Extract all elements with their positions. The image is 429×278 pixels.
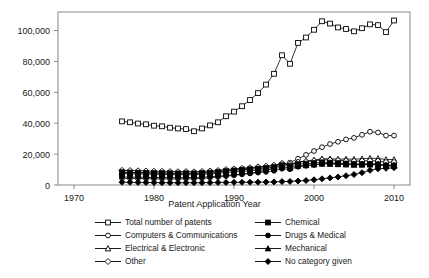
data-point-open-circle xyxy=(312,149,317,154)
legend-label: Drugs & Medical xyxy=(285,231,346,239)
legend-key xyxy=(255,244,281,253)
series-total-number-of-patents xyxy=(120,18,397,134)
data-point-open-square xyxy=(352,29,357,34)
legend-label: No category given xyxy=(285,257,352,265)
data-point-open-square xyxy=(216,120,221,125)
data-point-open-circle xyxy=(320,145,325,150)
legend-label: Computers & Communications xyxy=(125,231,238,239)
data-point-open-square xyxy=(368,22,373,27)
legend-key xyxy=(95,218,121,227)
legend-key xyxy=(255,231,281,240)
data-point-open-square xyxy=(168,125,173,130)
data-point-filled-diamond xyxy=(247,179,253,185)
data-point-filled-diamond xyxy=(335,174,341,180)
data-point-open-square xyxy=(304,35,309,40)
legend-label: Mechanical xyxy=(285,244,327,252)
data-point-open-square xyxy=(312,27,317,32)
legend-marker-filled-circle xyxy=(255,231,281,240)
data-point-filled-diamond xyxy=(263,179,269,185)
data-point-filled-diamond xyxy=(255,179,261,185)
legend-key xyxy=(255,257,281,266)
legend-item-computers-communications[interactable]: Computers & Communications xyxy=(95,229,255,242)
data-point-open-square xyxy=(376,23,381,28)
legend-key xyxy=(95,244,121,253)
data-point-open-square xyxy=(328,21,333,26)
x-axis-title: Patent Application Year xyxy=(0,199,429,209)
data-point-open-square xyxy=(320,19,325,24)
data-point-open-square xyxy=(392,18,397,23)
data-point-filled-diamond xyxy=(265,259,271,265)
y-tick-label: 20,000 xyxy=(22,150,50,160)
data-point-open-square xyxy=(344,27,349,32)
data-point-open-square xyxy=(232,109,237,114)
data-point-open-square xyxy=(200,126,205,131)
data-point-filled-diamond xyxy=(367,167,373,173)
data-point-open-square xyxy=(144,122,149,127)
y-tick-label: 0 xyxy=(45,181,50,191)
legend-marker-open-triangle xyxy=(95,244,121,253)
data-point-open-square xyxy=(152,123,157,128)
legend-marker-filled-square xyxy=(255,218,281,227)
data-point-filled-diamond xyxy=(295,178,301,184)
data-point-open-circle xyxy=(368,129,373,134)
legend-marker-open-circle xyxy=(95,231,121,240)
legend-item-total-number-of-patents[interactable]: Total number of patents xyxy=(95,216,255,229)
data-point-open-square xyxy=(208,123,213,128)
data-point-open-square xyxy=(106,220,111,225)
legend-key xyxy=(95,231,121,240)
data-point-open-square xyxy=(336,25,341,30)
chart-legend: Total number of patentsChemicalComputers… xyxy=(95,216,395,268)
data-point-open-square xyxy=(176,126,181,131)
legend-item-no-category-given[interactable]: No category given xyxy=(255,255,400,268)
legend-item-drugs-medical[interactable]: Drugs & Medical xyxy=(255,229,400,242)
data-point-open-square xyxy=(120,119,125,124)
data-point-open-square xyxy=(288,61,293,66)
data-point-open-square xyxy=(184,127,189,132)
data-point-open-circle xyxy=(336,139,341,144)
data-point-filled-diamond xyxy=(239,179,245,185)
data-point-filled-diamond xyxy=(319,176,325,182)
data-point-open-circle xyxy=(352,135,357,140)
legend-label: Total number of patents xyxy=(125,218,212,226)
data-point-open-square xyxy=(256,91,261,96)
legend-marker-open-square xyxy=(95,218,121,227)
data-point-open-circle xyxy=(392,133,397,138)
y-tick-label: 80,000 xyxy=(22,57,50,67)
legend-key xyxy=(95,257,121,266)
data-point-filled-diamond xyxy=(343,173,349,179)
data-point-filled-diamond xyxy=(359,170,365,176)
data-point-open-square xyxy=(160,124,165,129)
legend-marker-filled-diamond xyxy=(255,257,281,266)
data-point-filled-circle xyxy=(266,233,271,238)
data-point-open-square xyxy=(296,40,301,45)
data-point-open-diamond xyxy=(105,259,111,265)
data-point-open-square xyxy=(224,114,229,119)
data-point-filled-square xyxy=(266,220,271,225)
legend-label: Electrical & Electronic xyxy=(125,244,205,252)
legend-item-chemical[interactable]: Chemical xyxy=(255,216,400,229)
data-point-open-circle xyxy=(344,137,349,142)
data-point-open-circle xyxy=(360,132,365,137)
data-point-open-circle xyxy=(384,133,389,138)
data-point-open-square xyxy=(240,104,245,109)
y-tick-label: 40,000 xyxy=(22,119,50,129)
data-point-open-circle xyxy=(106,233,111,238)
data-point-open-square xyxy=(136,121,141,126)
data-point-filled-diamond xyxy=(231,179,237,185)
data-point-open-square xyxy=(280,53,285,58)
data-point-open-square xyxy=(248,98,253,103)
data-point-open-circle xyxy=(328,142,333,147)
legend-item-mechanical[interactable]: Mechanical xyxy=(255,242,400,255)
series-line xyxy=(122,21,394,132)
legend-item-other[interactable]: Other xyxy=(95,255,255,268)
data-point-filled-diamond xyxy=(351,171,357,177)
data-point-open-square xyxy=(272,71,277,76)
data-point-filled-diamond xyxy=(271,179,277,185)
data-point-open-square xyxy=(360,26,365,31)
legend-label: Chemical xyxy=(285,218,320,226)
y-tick-label: 100,000 xyxy=(17,26,50,36)
patent-trends-chart: 020,00040,00060,00080,000100,00019701980… xyxy=(0,0,429,278)
data-point-open-square xyxy=(264,82,269,87)
data-point-filled-diamond xyxy=(279,179,285,185)
legend-item-electrical-electronic[interactable]: Electrical & Electronic xyxy=(95,242,255,255)
